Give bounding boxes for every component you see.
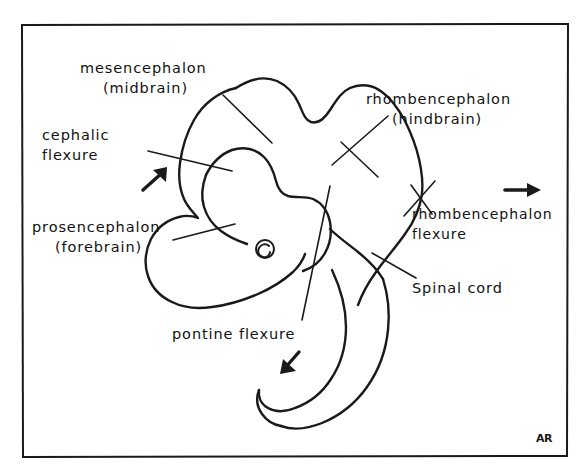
label-pontine-flexure: pontine flexure [172,326,295,342]
label-pontine-flexure-line1: pontine flexure [172,326,295,342]
label-mesencephalon-line1: mesencephalon [80,60,207,76]
brain-outline-group [146,79,423,308]
embryonic-brain-diagram: mesencephalon (midbrain) cephalic flexur… [0,0,585,476]
label-spinal-cord: Spinal cord [412,280,503,296]
spinal-cord-tube [257,270,388,428]
label-spinal-cord-line1: Spinal cord [412,280,503,296]
label-cephalic-flexure-line2: flexure [42,147,98,163]
label-prosencephalon-line1: prosencephalon [32,219,160,235]
label-mesencephalon: mesencephalon (midbrain) [80,60,207,96]
diagram-canvas: mesencephalon (midbrain) cephalic flexur… [0,0,585,476]
label-mesencephalon-line2: (midbrain) [103,80,188,96]
leader-rhombencephalon-b [341,142,378,177]
leader-lines-group [148,95,435,320]
label-rhombencephalon-line2: (hindbrain) [392,111,482,127]
label-rhombencephalon-flexure: rhombencephalon flexure [412,206,552,242]
leader-rhombencephalon-a [332,116,388,165]
ventricle-lower-contour [202,175,247,244]
leader-prosencephalon [173,224,235,240]
label-rhombencephalon-flexure-line1: rhombencephalon [412,206,552,222]
label-rhombencephalon-flexure-line2: flexure [412,226,467,242]
brain-outer-contour [146,88,305,308]
label-cephalic-flexure: cephalic flexure [42,127,109,163]
label-rhombencephalon-line1: rhombencephalon [366,91,511,107]
ventricle-inner-contour [206,148,331,271]
leader-cephalic-flexure [148,151,232,171]
midbrain-dome-contour [236,79,350,123]
label-prosencephalon: prosencephalon (forebrain) [32,219,160,255]
lateral-direction-arrow [505,183,541,197]
label-rhombencephalon: rhombencephalon (hindbrain) [366,91,511,127]
label-prosencephalon-line2: (forebrain) [55,239,142,255]
leader-mesencephalon [223,95,272,143]
label-cephalic-flexure-line1: cephalic [42,127,109,143]
artist-signature: AR [536,432,553,445]
optic-vesicle-eye [256,240,274,258]
cephalic-flexure-arrow [143,167,167,190]
pontine-flexure-arrow [280,352,299,374]
